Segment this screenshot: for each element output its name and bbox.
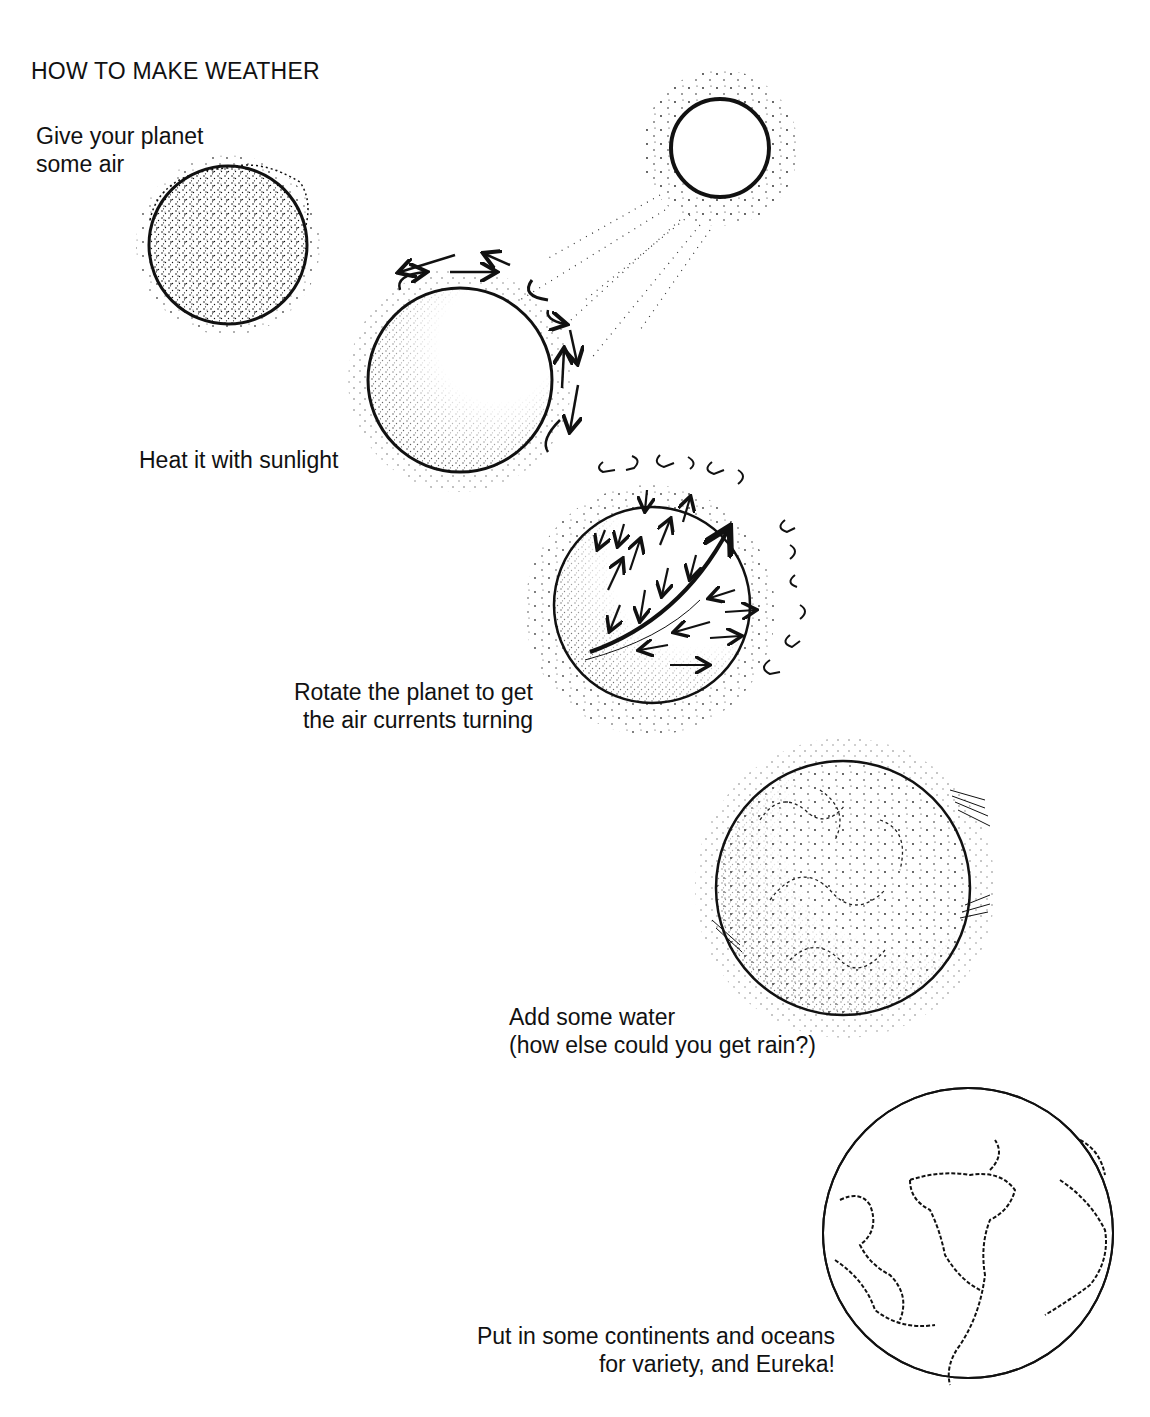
planet-with-clouds-illustration [695,738,995,1038]
sun-illustration [520,70,798,360]
rotating-planet-air-currents-illustration [525,455,805,735]
sun-heating-planet-illustration [348,254,578,492]
planet-with-atmosphere-illustration [136,155,320,335]
illustration-canvas [0,0,1150,1417]
earth-with-continents-illustration [823,1088,1113,1385]
